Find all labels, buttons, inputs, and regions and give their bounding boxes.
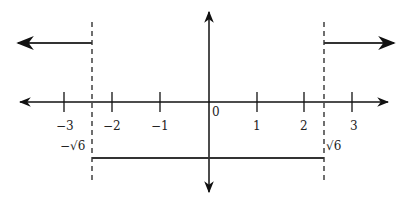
tick-label: −3 xyxy=(56,119,74,133)
tick-label: −1 xyxy=(151,119,169,133)
piecewise-graph: −3 −2 −1 0 1 2 3 −√6 √6 xyxy=(0,0,412,201)
boundary-label-left: −√6 xyxy=(60,139,85,153)
tick-label: −2 xyxy=(103,119,121,133)
tick-label: 3 xyxy=(350,119,358,133)
tick-label: 0 xyxy=(212,105,220,119)
tick-label: 2 xyxy=(300,119,308,133)
tick-label: 1 xyxy=(253,119,261,133)
boundary-label-right: √6 xyxy=(326,139,341,153)
